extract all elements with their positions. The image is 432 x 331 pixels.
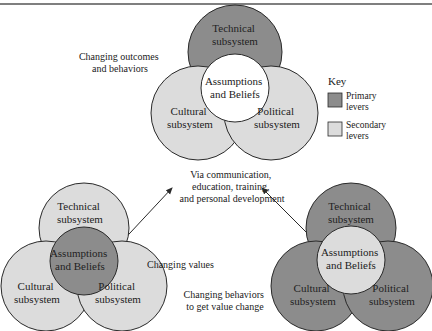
right-diagram: Technical subsystem Assumptions and Beli… (184, 183, 432, 331)
top-diagram: Technical subsystem Assumptions and Beli… (79, 5, 318, 160)
right-technical-label: Technical subsystem (328, 200, 374, 225)
left-core-label: Assumptions and Beliefs (50, 247, 110, 272)
top-technical-label: Technical subsystem (212, 22, 258, 47)
left-political-label: Political subsystem (95, 280, 141, 305)
top-core-label: Assumptions and Beliefs (205, 75, 265, 100)
center-text: Via communication, education, training, … (180, 169, 285, 204)
right-political-label: Political subsystem (369, 282, 415, 307)
legend-title: Key (328, 75, 347, 87)
legend: Key Primary levers Secondary levers (328, 75, 388, 141)
right-caption: Changing behaviors to get value change (184, 289, 267, 312)
right-core-label: Assumptions and Beliefs (321, 246, 381, 271)
left-technical-label: Technical subsystem (57, 200, 103, 225)
right-cultural-label: Cultural subsystem (290, 282, 336, 307)
legend-swatch-primary (328, 93, 342, 107)
top-political-label: Political subsystem (254, 105, 300, 130)
left-cultural-label: Cultural subsystem (14, 280, 60, 305)
top-caption: Changing outcomes and behaviors (79, 51, 161, 74)
legend-label-primary: Primary levers (346, 91, 379, 112)
legend-swatch-secondary (328, 122, 342, 136)
diagram-canvas: Technical subsystem Assumptions and Beli… (0, 0, 432, 331)
left-diagram: Technical subsystem Assumptions and Beli… (1, 183, 214, 331)
legend-label-secondary: Secondary levers (346, 120, 388, 141)
left-caption: Changing values (147, 259, 214, 270)
top-cultural-label: Cultural subsystem (167, 105, 213, 130)
